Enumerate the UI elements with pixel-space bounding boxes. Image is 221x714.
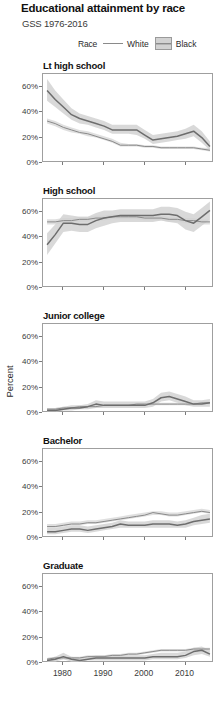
- series-canvas: [43, 574, 214, 663]
- y-tick-label: 0%: [26, 533, 38, 542]
- plot-area: [42, 323, 213, 412]
- y-tick-label: 60%: [22, 581, 38, 590]
- panel-title: Junior college: [43, 310, 105, 321]
- x-tick-label: 1990: [94, 668, 113, 678]
- legend-item-black: Black: [155, 37, 197, 50]
- page-title: Educational attainment by race: [21, 2, 185, 14]
- plot-area: [42, 73, 213, 162]
- y-axis-label: Percent: [4, 357, 15, 407]
- y-tick-label: 60%: [22, 81, 38, 90]
- legend-swatch-white-icon: [103, 39, 123, 48]
- y-tick-mark: [39, 662, 42, 663]
- series-canvas: [43, 324, 214, 413]
- panel-title: Lt high school: [43, 60, 105, 71]
- y-tick-label: 60%: [22, 331, 38, 340]
- y-tick-label: 0%: [26, 283, 38, 292]
- y-tick-mark: [39, 162, 42, 163]
- y-tick-label: 20%: [22, 132, 38, 141]
- y-tick-label: 0%: [26, 658, 38, 667]
- y-tick-label: 20%: [22, 382, 38, 391]
- panel-title: Graduate: [43, 560, 83, 571]
- y-tick-label: 20%: [22, 257, 38, 266]
- y-tick-label: 40%: [22, 607, 38, 616]
- chart-root: Educational attainment by race GSS 1976-…: [0, 0, 221, 714]
- legend: Race White Black: [78, 37, 197, 50]
- legend-title: Race: [78, 39, 97, 49]
- x-tick-label: 2010: [175, 668, 194, 678]
- panel-title: Bachelor: [43, 435, 82, 446]
- x-tick-label: 2000: [134, 668, 153, 678]
- plot-area: [42, 448, 213, 537]
- confidence-band-black: [47, 202, 210, 255]
- y-tick-label: 40%: [22, 482, 38, 491]
- y-tick-label: 40%: [22, 107, 38, 116]
- y-tick-label: 0%: [26, 408, 38, 417]
- y-tick-mark: [39, 412, 42, 413]
- page-subtitle: GSS 1976-2016: [22, 18, 88, 29]
- y-tick-label: 40%: [22, 232, 38, 241]
- series-canvas: [43, 199, 214, 288]
- y-tick-mark: [39, 287, 42, 288]
- legend-label-black: Black: [176, 39, 197, 49]
- y-tick-label: 0%: [26, 158, 38, 167]
- y-tick-label: 20%: [22, 507, 38, 516]
- y-tick-label: 20%: [22, 632, 38, 641]
- series-canvas: [43, 449, 214, 538]
- series-canvas: [43, 74, 214, 163]
- legend-item-white: White: [103, 39, 149, 49]
- y-tick-mark: [39, 537, 42, 538]
- x-tick-label: 1980: [53, 668, 72, 678]
- y-tick-label: 60%: [22, 456, 38, 465]
- plot-area: [42, 198, 213, 287]
- legend-label-white: White: [127, 39, 149, 49]
- legend-swatch-black-icon: [155, 37, 172, 50]
- y-tick-label: 60%: [22, 206, 38, 215]
- y-tick-label: 40%: [22, 357, 38, 366]
- plot-area: [42, 573, 213, 662]
- panel-title: High school: [43, 185, 95, 196]
